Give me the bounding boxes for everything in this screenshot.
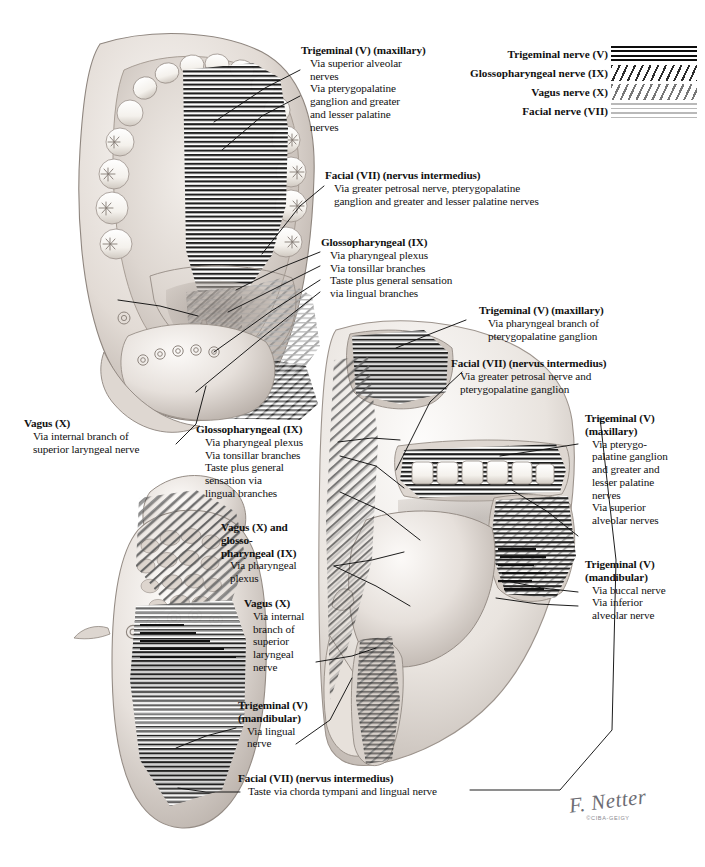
label-line: plexus bbox=[230, 572, 341, 585]
legend-swatch-facial bbox=[611, 103, 697, 119]
label-heading-2: (mandibular) bbox=[585, 571, 705, 584]
label-heading: Glossopharyngeal (IX) bbox=[196, 423, 346, 436]
label-heading: Vagus (X) bbox=[24, 417, 204, 430]
label-heading-2: (mandibular) bbox=[238, 712, 368, 725]
label-line: superior bbox=[253, 635, 354, 648]
label-line: Via superior alveolar bbox=[310, 57, 486, 70]
signature-mark: F. Netter bbox=[568, 784, 648, 818]
label-heading: Trigeminal (V) bbox=[585, 412, 705, 425]
label-glossopharyngeal-top: Glossopharyngeal (IX) Via pharyngeal ple… bbox=[321, 236, 551, 300]
legend-label-glossopharyngeal: Glossopharyngeal nerve (IX) bbox=[470, 67, 611, 79]
label-heading: Vagus (X) and bbox=[221, 521, 341, 534]
label-facial-mid: Facial (VII) (nervus intermedius) Via gr… bbox=[451, 357, 701, 395]
label-trigeminal-maxillary-top: Trigeminal (V) (maxillary) Via superior … bbox=[301, 44, 486, 133]
label-heading: Trigeminal (V) (maxillary) bbox=[479, 304, 704, 317]
label-line: pterygopalatine ganglion bbox=[460, 383, 701, 396]
label-facial-top: Facial (VII) (nervus intermedius) Via gr… bbox=[325, 169, 625, 207]
label-line: alveolar nerves bbox=[592, 514, 705, 527]
label-trigeminal-maxillary-right: Trigeminal (V) (maxillary) Via pterygo- … bbox=[585, 412, 705, 527]
label-facial-bottom: Facial (VII) (nervus intermedius) Taste … bbox=[238, 772, 518, 798]
label-heading: Facial (VII) (nervus intermedius) bbox=[238, 772, 518, 785]
label-line: lesser palatine bbox=[592, 476, 705, 489]
label-line: Via pterygopalatine bbox=[310, 82, 486, 95]
label-line: Via internal branch of bbox=[33, 430, 204, 443]
copyright-notice: ©CIBA-GEIGY bbox=[548, 815, 668, 821]
label-heading-2: (maxillary) bbox=[585, 425, 705, 438]
label-heading: Glossopharyngeal (IX) bbox=[321, 236, 551, 249]
label-line: nerves bbox=[310, 121, 486, 134]
label-line: Via pterygo- bbox=[592, 438, 705, 451]
legend-label-trigeminal: Trigeminal nerve (V) bbox=[508, 48, 611, 60]
label-heading: Trigeminal (V) bbox=[238, 699, 368, 712]
label-line: Via pharyngeal bbox=[230, 559, 341, 572]
label-line: Via greater petrosal nerve and bbox=[460, 370, 701, 383]
label-line: sensation via bbox=[205, 474, 346, 487]
label-line: Via buccal nerve bbox=[592, 584, 705, 597]
label-line: Taste plus general bbox=[205, 461, 346, 474]
label-line: Taste plus general sensation bbox=[330, 274, 551, 287]
label-line: via lingual branches bbox=[330, 287, 551, 300]
label-line: and greater and bbox=[592, 463, 705, 476]
label-line: and lesser palatine bbox=[310, 108, 486, 121]
label-vagus-lower: Vagus (X) Via internal branch of superio… bbox=[244, 597, 354, 674]
label-heading-2: glosso- bbox=[221, 534, 341, 547]
label-vagus-glossopharyngeal: Vagus (X) and glosso- pharyngeal (IX) Vi… bbox=[221, 521, 341, 585]
label-line: nerve bbox=[253, 661, 354, 674]
legend-label-facial: Facial nerve (VII) bbox=[522, 105, 611, 117]
label-heading-3: pharyngeal (IX) bbox=[221, 547, 341, 560]
label-line: Via inferior bbox=[592, 596, 705, 609]
label-line: pterygopalatine ganglion bbox=[488, 330, 704, 343]
label-line: Taste via chorda tympani and lingual ner… bbox=[248, 785, 518, 798]
legend-swatch-vagus bbox=[611, 84, 697, 100]
label-trigeminal-maxillary-mid: Trigeminal (V) (maxillary) Via pharyngea… bbox=[479, 304, 704, 342]
label-glossopharyngeal-left: Glossopharyngeal (IX) Via pharyngeal ple… bbox=[196, 423, 346, 500]
label-line: superior laryngeal nerve bbox=[33, 443, 204, 456]
label-line: Via internal bbox=[253, 610, 354, 623]
label-line: Via pharyngeal plexus bbox=[330, 249, 551, 262]
legend-swatch-glossopharyngeal bbox=[611, 65, 697, 81]
label-line: alveolar nerve bbox=[592, 609, 705, 622]
label-heading: Trigeminal (V) (maxillary) bbox=[301, 44, 486, 57]
label-vagus-left: Vagus (X) Via internal branch of superio… bbox=[24, 417, 204, 455]
legend-label-vagus: Vagus nerve (X) bbox=[531, 86, 611, 98]
label-line: ganglion and greater bbox=[310, 95, 486, 108]
label-line: lingual branches bbox=[205, 487, 346, 500]
label-trigeminal-mandibular-right: Trigeminal (V) (mandibular) Via buccal n… bbox=[585, 558, 705, 622]
label-heading: Facial (VII) (nervus intermedius) bbox=[325, 169, 625, 182]
label-line: Via pharyngeal branch of bbox=[488, 317, 704, 330]
label-line: Via pharyngeal plexus bbox=[205, 436, 346, 449]
illustration-palate-view bbox=[79, 34, 332, 433]
label-line: Via superior bbox=[592, 501, 705, 514]
label-trigeminal-mandibular-bottom: Trigeminal (V) (mandibular) Via lingual … bbox=[238, 699, 368, 750]
label-line: laryngeal bbox=[253, 648, 354, 661]
legend-swatch-trigeminal bbox=[611, 46, 697, 62]
artist-signature: F. Netter ©CIBA-GEIGY bbox=[548, 789, 668, 821]
label-line: branch of bbox=[253, 623, 354, 636]
label-line: ganglion and greater and lesser palatine… bbox=[334, 195, 625, 208]
label-line: palatine ganglion bbox=[592, 450, 705, 463]
label-line: Via tonsillar branches bbox=[205, 449, 346, 462]
label-line: Via greater petrosal nerve, pterygopalat… bbox=[334, 182, 625, 195]
label-line: nerve bbox=[247, 737, 368, 750]
label-line: nerves bbox=[592, 489, 705, 502]
label-heading: Vagus (X) bbox=[244, 597, 354, 610]
label-heading: Facial (VII) (nervus intermedius) bbox=[451, 357, 701, 370]
label-line: Via tonsillar branches bbox=[330, 262, 551, 275]
label-heading: Trigeminal (V) bbox=[585, 558, 705, 571]
label-line: nerves bbox=[310, 70, 486, 83]
label-line: Via lingual bbox=[247, 725, 368, 738]
